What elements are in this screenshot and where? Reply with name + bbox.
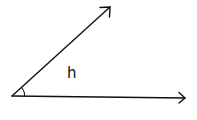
upper-ray (12, 7, 110, 96)
angle-diagram: h (0, 0, 197, 120)
lower-ray (12, 93, 185, 104)
angle-label: h (67, 64, 77, 82)
angle-arc-icon (22, 88, 25, 97)
